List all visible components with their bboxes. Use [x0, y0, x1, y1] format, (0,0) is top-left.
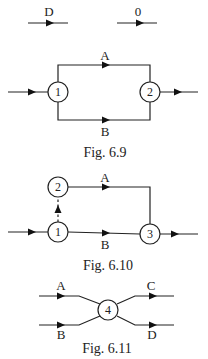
figure-caption: Fig. 6.9: [83, 145, 126, 160]
arrowhead-icon: [28, 229, 36, 236]
activity-b-path: [58, 102, 150, 120]
arrowhead-icon: [28, 89, 36, 96]
activity-d-label: D: [147, 327, 156, 342]
activity-c-path: [117, 296, 174, 304]
arrowhead-icon: [171, 231, 179, 238]
figure-6-9: A B 1 2 Fig. 6.9: [8, 48, 198, 160]
legend-dummy: 0: [117, 4, 157, 27]
activity-b-label: B: [57, 327, 66, 342]
node-1-label: 1: [55, 225, 61, 239]
activity-a-path: [68, 187, 150, 225]
node-2-label: 2: [55, 180, 61, 194]
legend-activity-label: D: [44, 4, 53, 19]
node-3-label: 3: [147, 227, 153, 241]
activity-b-label: B: [101, 124, 110, 139]
legend-activity: D: [28, 4, 68, 27]
node-4-label: 4: [105, 303, 111, 317]
figure-6-11: A B C D 4 Fig. 6.11: [39, 278, 174, 356]
arrowhead-icon: [57, 293, 65, 300]
activity-b-path: [39, 316, 100, 325]
activity-a-path: [39, 296, 100, 304]
figure-6-10: A B 2 1 3 Fig. 6.10: [8, 170, 198, 273]
arrowhead-icon: [46, 20, 54, 27]
figure-caption: Fig. 6.11: [82, 341, 132, 356]
legend: D 0: [28, 4, 157, 27]
node-2-label: 2: [147, 85, 153, 99]
arrowhead-icon: [174, 89, 182, 96]
arrowhead-icon: [149, 293, 157, 300]
node-1-label: 1: [55, 85, 61, 99]
arrowhead-icon: [55, 205, 62, 213]
legend-dummy-label: 0: [135, 4, 142, 19]
activity-a-label: A: [100, 170, 110, 185]
activity-d-path: [117, 316, 174, 325]
arrowhead-icon: [136, 20, 144, 27]
activity-b-label: B: [101, 237, 110, 252]
figure-caption: Fig. 6.10: [83, 258, 133, 273]
arrowhead-icon: [102, 230, 110, 237]
arrowhead-icon: [102, 117, 110, 124]
activity-a-label: A: [100, 48, 110, 63]
activity-a-label: A: [56, 278, 66, 293]
network-diagrams: D 0 A B 1 2 Fig. 6.9 A: [0, 0, 208, 359]
activity-c-label: C: [147, 278, 156, 293]
